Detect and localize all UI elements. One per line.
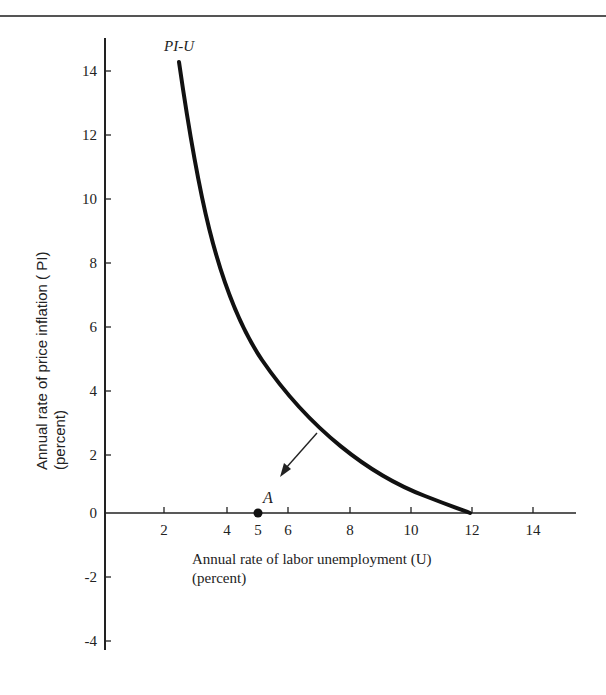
x-tick-label: 5 bbox=[254, 522, 262, 538]
y-tick-label: 8 bbox=[90, 255, 98, 271]
x-tick-label: 8 bbox=[346, 522, 354, 538]
y-tick-label: -4 bbox=[85, 633, 98, 649]
x-tick-label: 14 bbox=[526, 522, 542, 538]
y-tick-label: 2 bbox=[90, 447, 98, 463]
x-tick-label: 6 bbox=[284, 522, 292, 538]
point-a-label: A bbox=[262, 489, 273, 506]
y-axis-label: Annual rate of price inflation ( PI) bbox=[33, 252, 50, 470]
y-tick-label: 4 bbox=[90, 383, 98, 399]
pi-u-curve bbox=[179, 62, 470, 513]
curve-label: PI-U bbox=[163, 38, 195, 54]
y-tick-label: 0 bbox=[90, 505, 98, 521]
y-tick-label: 6 bbox=[90, 319, 98, 335]
x-tick-label: 2 bbox=[160, 522, 168, 538]
x-ticks bbox=[164, 507, 533, 513]
x-tick-label: 12 bbox=[465, 522, 480, 538]
shift-arrow bbox=[280, 433, 317, 477]
phillips-curve-chart: 14 12 10 8 6 4 2 0 -2 -4 2 4 5 6 8 10 12… bbox=[0, 0, 606, 695]
y-axis-unit: (percent) bbox=[51, 410, 68, 470]
x-tick-labels: 2 4 5 6 8 10 12 14 bbox=[160, 522, 541, 538]
x-axis-label: Annual rate of labor unemployment (U) bbox=[192, 551, 432, 568]
point-a-marker bbox=[254, 509, 263, 518]
x-tick-label: 4 bbox=[223, 522, 231, 538]
y-tick-label: -2 bbox=[85, 569, 98, 585]
y-tick-labels: 14 12 10 8 6 4 2 0 -2 -4 bbox=[82, 63, 98, 649]
x-axis-unit: (percent) bbox=[192, 570, 246, 587]
y-tick-label: 12 bbox=[82, 127, 97, 143]
y-tick-label: 14 bbox=[82, 63, 98, 79]
y-tick-label: 10 bbox=[82, 191, 97, 207]
x-tick-label: 10 bbox=[404, 522, 419, 538]
